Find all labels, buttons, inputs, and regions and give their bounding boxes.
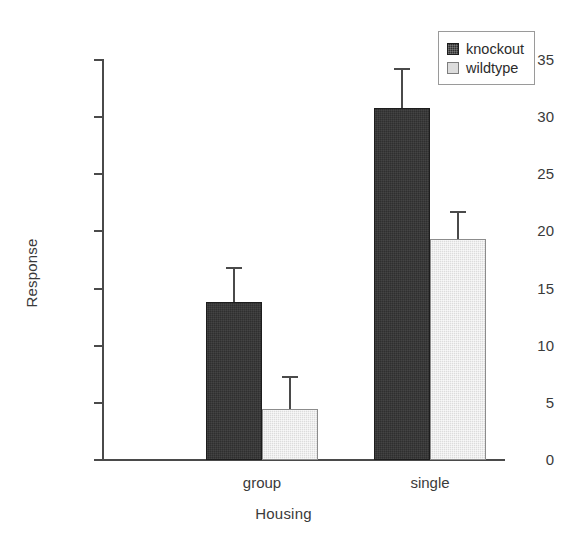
y-axis-tick-label: 20 <box>481 222 567 239</box>
plot-area <box>102 60 488 460</box>
error-bar-cap-group-knockout <box>226 267 242 269</box>
y-axis-tick-label: 15 <box>481 280 567 297</box>
y-axis-tick <box>94 173 102 175</box>
error-bar-stem-single-wildtype <box>457 212 459 239</box>
y-axis-tick-label: 30 <box>481 108 567 125</box>
error-bar-cap-single-wildtype <box>450 211 466 213</box>
error-bar-stem-group-knockout <box>233 268 235 302</box>
x-axis-label-single: single <box>360 474 500 491</box>
legend-label-knockout: knockout <box>466 41 524 57</box>
y-axis-tick <box>94 116 102 118</box>
y-axis-tick <box>94 459 102 461</box>
legend-swatch-wildtype-icon <box>447 62 459 74</box>
bar-single-knockout <box>374 108 430 460</box>
bar-group-knockout <box>206 302 262 460</box>
y-axis-title: Response <box>14 0 48 546</box>
y-axis-tick <box>94 288 102 290</box>
y-axis-tick <box>94 345 102 347</box>
legend: knockout wildtype <box>438 31 535 85</box>
error-bar-stem-single-knockout <box>401 69 403 108</box>
bar-single-wildtype <box>430 239 486 460</box>
y-axis-tick-label: 5 <box>481 394 567 411</box>
y-axis-tick-label: 0 <box>481 451 567 468</box>
legend-label-wildtype: wildtype <box>466 60 518 76</box>
y-axis-tick <box>94 230 102 232</box>
x-axis-title: Housing <box>0 505 567 522</box>
error-bar-cap-group-wildtype <box>282 376 298 378</box>
error-bar-stem-group-wildtype <box>289 377 291 409</box>
bar-chart: Response Housing 05101520253035 groupsin… <box>0 0 567 546</box>
y-axis-tick <box>94 59 102 61</box>
bar-group-wildtype <box>262 409 318 460</box>
error-bar-cap-single-knockout <box>394 68 410 70</box>
y-axis-tick-label: 25 <box>481 165 567 182</box>
legend-item-wildtype[interactable]: wildtype <box>447 58 524 77</box>
legend-swatch-knockout-icon <box>447 43 459 55</box>
legend-item-knockout[interactable]: knockout <box>447 39 524 58</box>
y-axis-tick-label: 10 <box>481 337 567 354</box>
x-axis-label-group: group <box>192 474 332 491</box>
y-axis-tick <box>94 402 102 404</box>
